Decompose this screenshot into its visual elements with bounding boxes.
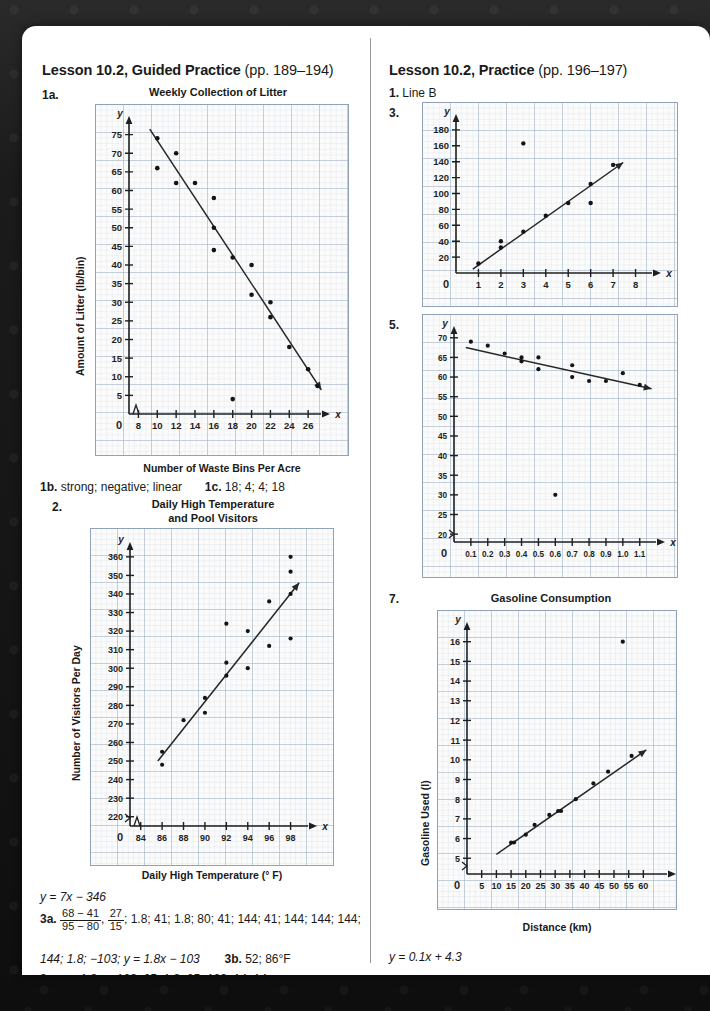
answer-1c-label: 1c. — [205, 480, 222, 494]
svg-text:88: 88 — [179, 833, 189, 843]
svg-text:10: 10 — [491, 881, 501, 891]
answer-3a-rest: ; 1.8; 41; 1.8; 80; 41; 144; 41; 144; 14… — [124, 912, 361, 926]
svg-text:65: 65 — [111, 166, 122, 177]
svg-text:35: 35 — [438, 472, 448, 481]
svg-text:300: 300 — [108, 664, 123, 674]
svg-text:8: 8 — [633, 279, 638, 290]
answer-1b-text: strong; negative; linear — [61, 480, 182, 494]
answer-1-label: 1. — [389, 86, 399, 100]
svg-text:0: 0 — [116, 419, 122, 431]
svg-text:2: 2 — [498, 279, 503, 290]
svg-text:350: 350 — [108, 571, 123, 581]
svg-text:35: 35 — [565, 881, 575, 891]
answer-3b-text: 52; 86°F — [245, 952, 291, 966]
svg-text:86: 86 — [157, 833, 167, 843]
svg-text:15: 15 — [450, 657, 460, 667]
svg-text:x: x — [321, 821, 328, 832]
svg-text:50: 50 — [438, 413, 448, 422]
question-7-number: 7. — [389, 592, 399, 606]
answer-3a-block: 3a. 68 − 41 95 − 80 , 27 15 ; 1.8; 41; 1… — [40, 908, 365, 932]
svg-text:280: 280 — [108, 701, 123, 711]
answer-3a-label: 3a. — [40, 912, 57, 926]
svg-text:80: 80 — [438, 204, 449, 215]
answer-3a-line2: 144; 1.8; −103; y = 1.8x − 103 3b. 52; 8… — [40, 950, 291, 969]
svg-text:260: 260 — [108, 738, 123, 748]
svg-text:10: 10 — [450, 755, 460, 765]
question-5-number: 5. — [389, 318, 399, 332]
svg-text:160: 160 — [433, 140, 449, 151]
svg-text:50: 50 — [111, 222, 122, 233]
fraction-1-denominator: 95 − 80 — [60, 921, 101, 933]
svg-text:20: 20 — [438, 252, 449, 263]
svg-text:30: 30 — [438, 491, 448, 500]
svg-text:40: 40 — [438, 236, 449, 247]
svg-text:55: 55 — [624, 881, 634, 891]
svg-text:16: 16 — [209, 420, 220, 431]
svg-text:60: 60 — [638, 881, 648, 891]
svg-text:96: 96 — [264, 833, 274, 843]
svg-text:14: 14 — [450, 676, 460, 686]
svg-text:4: 4 — [543, 279, 549, 290]
answer-3c-label: 3c. — [40, 972, 57, 975]
svg-text:16: 16 — [450, 637, 460, 647]
svg-text:5: 5 — [117, 390, 123, 401]
svg-text:15: 15 — [111, 353, 122, 364]
svg-text:65: 65 — [438, 354, 448, 363]
chart-2-plot: yx08486889092949698220230240250260270280… — [90, 528, 334, 866]
svg-text:y: y — [441, 318, 448, 329]
svg-text:140: 140 — [433, 156, 449, 167]
chart-7-plot: yx05101520253035404550556056789101112131… — [437, 610, 677, 910]
svg-text:0.6: 0.6 — [550, 550, 562, 559]
svg-text:360: 360 — [108, 552, 123, 562]
svg-text:40: 40 — [438, 452, 448, 461]
answer-1-line: 1. Line B — [389, 84, 436, 103]
svg-text:3: 3 — [521, 279, 526, 290]
chart-2-title-line1: Daily High Temperature — [88, 498, 338, 512]
svg-text:8: 8 — [455, 795, 460, 805]
fraction-2-denominator: 15 — [108, 921, 124, 933]
svg-text:0.7: 0.7 — [567, 550, 579, 559]
svg-text:70: 70 — [111, 148, 122, 159]
svg-text:10: 10 — [111, 371, 122, 382]
svg-text:40: 40 — [111, 259, 122, 270]
svg-text:35: 35 — [111, 278, 122, 289]
fraction-2-numerator: 27 — [108, 908, 124, 921]
svg-text:y: y — [454, 614, 461, 625]
question-3-number: 3. — [389, 106, 399, 120]
answer-3a-line2-text: 144; 1.8; −103; y = 1.8x − 103 — [40, 952, 200, 966]
svg-text:22: 22 — [265, 420, 276, 431]
fraction-68-41-over-95-80: 68 − 41 95 − 80 — [60, 908, 101, 932]
svg-text:60: 60 — [111, 185, 122, 196]
svg-text:0.1: 0.1 — [465, 550, 477, 559]
answer-1b-1c-line: 1b. strong; negative; linear 1c. 18; 4; … — [40, 478, 285, 497]
svg-text:75: 75 — [111, 129, 122, 140]
chart-7-title: Gasoline Consumption — [426, 592, 676, 606]
svg-text:1.0: 1.0 — [617, 550, 629, 559]
chart-1a-plot: yx08101214161820222426510152025303540455… — [95, 104, 349, 456]
svg-text:220: 220 — [108, 812, 123, 822]
question-1a-number: 1a. — [42, 88, 59, 102]
chart-7-x-axis-label: Distance (km) — [437, 921, 677, 933]
svg-text:20: 20 — [111, 334, 122, 345]
svg-text:60: 60 — [438, 220, 449, 231]
svg-text:y: y — [443, 106, 450, 117]
svg-text:8: 8 — [136, 420, 141, 431]
svg-text:5: 5 — [479, 881, 484, 891]
svg-text:25: 25 — [111, 315, 122, 326]
svg-text:60: 60 — [438, 373, 448, 382]
svg-text:20: 20 — [246, 420, 257, 431]
svg-text:0: 0 — [443, 278, 449, 290]
svg-text:y: y — [116, 108, 123, 119]
svg-text:340: 340 — [108, 589, 123, 599]
svg-text:270: 270 — [108, 719, 123, 729]
svg-text:330: 330 — [108, 608, 123, 618]
svg-text:x: x — [669, 537, 676, 548]
answer-3b-label: 3b. — [224, 952, 241, 966]
svg-text:20: 20 — [438, 531, 448, 540]
svg-text:12: 12 — [171, 420, 182, 431]
svg-text:7: 7 — [455, 814, 460, 824]
svg-text:6: 6 — [588, 279, 593, 290]
answer-1c-text: 18; 4; 4; 18 — [225, 480, 285, 494]
svg-text:10: 10 — [152, 420, 163, 431]
svg-text:1.1: 1.1 — [634, 550, 646, 559]
